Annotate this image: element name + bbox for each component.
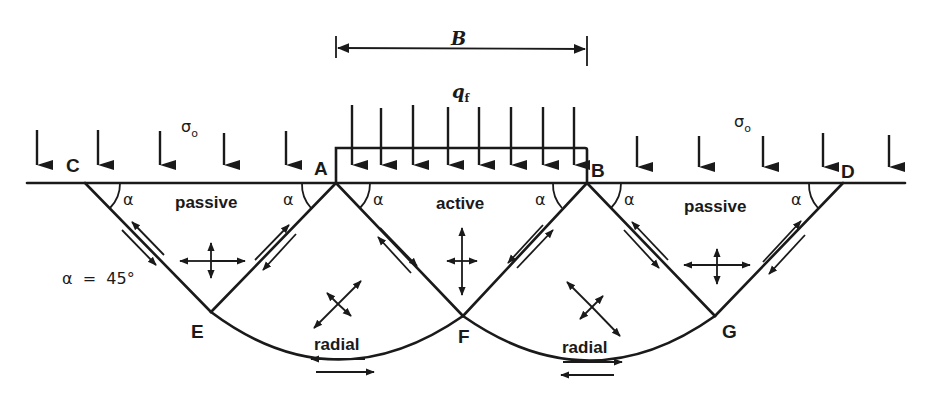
point-label-B: B bbox=[591, 160, 605, 181]
angle-label-B-left: α bbox=[535, 190, 546, 209]
surcharge-label-left: σo bbox=[181, 117, 198, 140]
point-label-G: G bbox=[722, 321, 737, 342]
principal-stress-crosses bbox=[180, 228, 750, 336]
diagram-canvas: B qf σo σo C A B D E F G passive active … bbox=[0, 0, 925, 401]
zone-label-left-radial: radial bbox=[314, 335, 359, 354]
dimension-label-B: B bbox=[450, 28, 466, 49]
point-label-F: F bbox=[458, 326, 470, 347]
zone-label-right-passive: passive bbox=[684, 197, 746, 216]
point-label-D: D bbox=[841, 161, 855, 182]
angle-label-A-right: α bbox=[373, 190, 384, 209]
angle-note: α = 45° bbox=[62, 269, 135, 288]
angle-label-D: α bbox=[791, 190, 802, 209]
angle-label-C: α bbox=[123, 190, 134, 209]
angle-label-A-left: α bbox=[283, 190, 294, 209]
zone-label-active: active bbox=[436, 194, 484, 213]
angle-label-B-right: α bbox=[624, 190, 635, 209]
point-label-A: A bbox=[314, 158, 328, 179]
point-label-E: E bbox=[191, 321, 204, 342]
zone-label-left-passive: passive bbox=[175, 193, 237, 212]
zone-label-right-radial: radial bbox=[562, 338, 607, 357]
slip-line-field-diagram: B qf σo σo C A B D E F G passive active … bbox=[0, 0, 925, 401]
footing-load-label: qf bbox=[452, 81, 471, 105]
footing-outline bbox=[336, 148, 587, 183]
footing-load-arrows bbox=[352, 105, 574, 165]
point-label-C: C bbox=[66, 155, 80, 176]
surcharge-label-right: σo bbox=[734, 112, 751, 135]
